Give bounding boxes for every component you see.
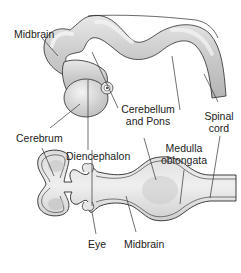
brain-diagram: Midbrain Cerebellum and Pons Spinal cord… — [0, 0, 241, 273]
label-cerebellum-line1: Cerebellum — [118, 103, 178, 115]
label-diencephalon: Diencephalon — [66, 150, 130, 162]
label-spinal-cord: Spinal cord — [198, 110, 240, 134]
folded-brain — [44, 15, 226, 117]
leader-cerebrum — [50, 104, 80, 128]
leader-medulla — [172, 56, 180, 110]
label-spinal-line2: cord — [198, 122, 240, 134]
leader-eye — [92, 212, 96, 234]
label-medulla-oblongata: Medulla oblongata — [155, 142, 213, 166]
label-medulla-line2: oblongata — [155, 154, 213, 166]
label-midbrain-bottom: Midbrain — [124, 238, 164, 250]
label-cerebellum-and-pons: Cerebellum and Pons — [118, 103, 178, 127]
label-midbrain-top: Midbrain — [14, 28, 54, 40]
label-medulla-line1: Medulla — [155, 142, 213, 154]
label-eye: Eye — [88, 238, 106, 250]
label-cerebellum-line2: and Pons — [118, 115, 178, 127]
label-spinal-line1: Spinal — [198, 110, 240, 122]
label-cerebrum: Cerebrum — [16, 132, 63, 144]
